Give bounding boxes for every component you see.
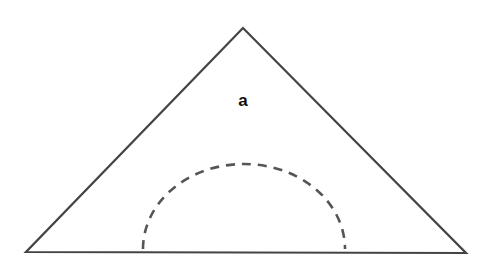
diagram-canvas: a bbox=[0, 0, 487, 269]
region-label-a: a bbox=[238, 91, 248, 110]
background bbox=[0, 0, 487, 269]
